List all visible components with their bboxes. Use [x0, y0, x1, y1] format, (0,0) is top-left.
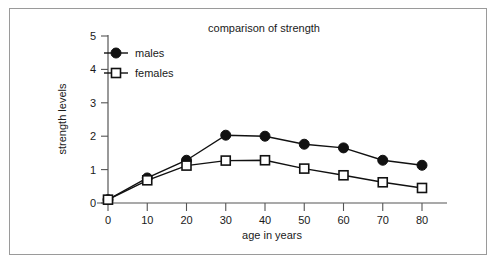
series-line-females	[108, 160, 422, 199]
chart-screenshot: comparison of strength 012345 0102030405…	[0, 0, 498, 269]
x-tick-label-20: 20	[180, 214, 192, 226]
marker-females-30	[221, 156, 230, 165]
marker-females-60	[339, 171, 348, 180]
x-tick-label-40: 40	[259, 214, 271, 226]
marker-males-70	[378, 155, 388, 165]
marker-females-70	[378, 178, 387, 187]
chart-title: comparison of strength	[208, 22, 320, 34]
legend-item-males: males	[104, 47, 165, 59]
x-axis-title: age in years	[242, 229, 302, 241]
y-tick-label-2: 2	[90, 130, 96, 142]
marker-females-40	[261, 156, 270, 165]
y-tick-label-3: 3	[90, 97, 96, 109]
x-tick-label-10: 10	[141, 214, 153, 226]
legend-marker-females	[112, 69, 121, 78]
legend-marker-males	[111, 48, 121, 58]
y-axis-ticks: 012345	[90, 30, 108, 209]
marker-males-50	[299, 139, 309, 149]
marker-females-80	[418, 183, 427, 192]
marker-females-10	[143, 176, 152, 185]
marker-females-50	[300, 164, 309, 173]
x-tick-label-50: 50	[298, 214, 310, 226]
y-tick-label-0: 0	[90, 197, 96, 209]
marker-females-0	[104, 195, 113, 204]
legend-item-females: females	[104, 67, 174, 79]
chart-legend: malesfemales	[104, 47, 174, 79]
marker-males-30	[221, 130, 231, 140]
x-axis-ticks: 01020304050607080	[105, 203, 428, 226]
legend-label-females: females	[135, 67, 174, 79]
chart-plot-area: comparison of strength 012345 0102030405…	[0, 0, 498, 269]
y-tick-label-5: 5	[90, 30, 96, 42]
y-tick-label-1: 1	[90, 164, 96, 176]
strength-comparison-line-chart: comparison of strength 012345 0102030405…	[0, 0, 498, 269]
x-tick-label-0: 0	[105, 214, 111, 226]
legend-label-males: males	[135, 47, 165, 59]
marker-males-60	[339, 143, 349, 153]
data-series-group	[103, 130, 427, 204]
marker-females-20	[182, 161, 191, 170]
y-tick-label-4: 4	[90, 63, 96, 75]
x-tick-label-30: 30	[220, 214, 232, 226]
x-tick-label-70: 70	[377, 214, 389, 226]
series-males	[103, 130, 427, 204]
y-axis-title: strength levels	[56, 83, 68, 154]
marker-males-40	[260, 131, 270, 141]
x-tick-label-80: 80	[416, 214, 428, 226]
marker-males-80	[417, 160, 427, 170]
x-tick-label-60: 60	[337, 214, 349, 226]
series-line-males	[108, 135, 422, 199]
